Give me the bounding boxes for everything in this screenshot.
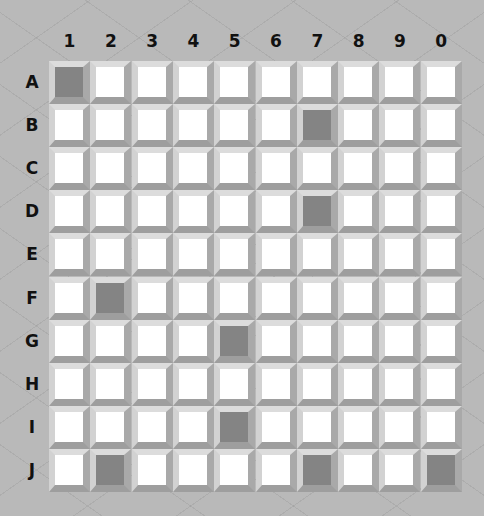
grid-cell-I7[interactable] [297,406,338,449]
grid-cell-H4[interactable] [173,363,214,406]
grid-cell-H3[interactable] [132,363,173,406]
grid-cell-F7[interactable] [297,277,338,320]
grid-cell-D8[interactable] [338,190,379,233]
grid-cell-C5[interactable] [214,147,255,190]
grid-cell-E4[interactable] [173,233,214,276]
grid-cell-D1[interactable] [49,190,90,233]
grid-cell-A3[interactable] [132,61,173,104]
grid-cell-C9[interactable] [379,147,420,190]
grid-cell-I6[interactable] [256,406,297,449]
grid-cell-A2[interactable] [90,61,131,104]
grid-cell-D4[interactable] [173,190,214,233]
grid-cell-F3[interactable] [132,277,173,320]
grid-cell-G5[interactable] [214,320,255,363]
grid-cell-F4[interactable] [173,277,214,320]
grid-cell-J0[interactable] [421,449,462,492]
grid-cell-H1[interactable] [49,363,90,406]
grid-cell-C8[interactable] [338,147,379,190]
grid-cell-H8[interactable] [338,363,379,406]
grid-cell-B5[interactable] [214,104,255,147]
grid-cell-I3[interactable] [132,406,173,449]
grid-cell-G0[interactable] [421,320,462,363]
grid-cell-I0[interactable] [421,406,462,449]
grid-cell-A7[interactable] [297,61,338,104]
grid-cell-D9[interactable] [379,190,420,233]
grid-cell-B6[interactable] [256,104,297,147]
grid-cell-J3[interactable] [132,449,173,492]
grid-cell-C4[interactable] [173,147,214,190]
grid-cell-A5[interactable] [214,61,255,104]
grid-cell-A8[interactable] [338,61,379,104]
grid-cell-J4[interactable] [173,449,214,492]
grid-cell-D6[interactable] [256,190,297,233]
grid-cell-B4[interactable] [173,104,214,147]
grid-cell-C0[interactable] [421,147,462,190]
grid-cell-E8[interactable] [338,233,379,276]
grid-cell-D5[interactable] [214,190,255,233]
grid-cell-F9[interactable] [379,277,420,320]
grid-cell-G9[interactable] [379,320,420,363]
grid-cell-H7[interactable] [297,363,338,406]
grid-cell-F2[interactable] [90,277,131,320]
grid-cell-I9[interactable] [379,406,420,449]
grid-cell-C6[interactable] [256,147,297,190]
grid-cell-H0[interactable] [421,363,462,406]
grid-cell-G6[interactable] [256,320,297,363]
grid-cell-A1[interactable] [49,61,90,104]
grid-cell-B0[interactable] [421,104,462,147]
grid-cell-F6[interactable] [256,277,297,320]
grid-cell-J7[interactable] [297,449,338,492]
grid-cell-I8[interactable] [338,406,379,449]
grid-cell-C2[interactable] [90,147,131,190]
grid-cell-A6[interactable] [256,61,297,104]
grid-cell-G3[interactable] [132,320,173,363]
grid-cell-C3[interactable] [132,147,173,190]
grid-cell-E0[interactable] [421,233,462,276]
grid-cell-J1[interactable] [49,449,90,492]
grid-cell-H6[interactable] [256,363,297,406]
grid-cell-D3[interactable] [132,190,173,233]
grid-cell-E1[interactable] [49,233,90,276]
grid-cell-G7[interactable] [297,320,338,363]
grid-cell-G8[interactable] [338,320,379,363]
grid-cell-H9[interactable] [379,363,420,406]
grid-cell-J8[interactable] [338,449,379,492]
grid-cell-G1[interactable] [49,320,90,363]
grid-cell-I5[interactable] [214,406,255,449]
grid-cell-J2[interactable] [90,449,131,492]
grid-cell-B1[interactable] [49,104,90,147]
grid-cell-D7[interactable] [297,190,338,233]
grid-cell-H2[interactable] [90,363,131,406]
grid-cell-H5[interactable] [214,363,255,406]
grid-cell-B3[interactable] [132,104,173,147]
grid-cell-I4[interactable] [173,406,214,449]
grid-cell-B8[interactable] [338,104,379,147]
grid-cell-G2[interactable] [90,320,131,363]
grid-cell-F5[interactable] [214,277,255,320]
grid-cell-E3[interactable] [132,233,173,276]
grid-cell-G4[interactable] [173,320,214,363]
grid-cell-E5[interactable] [214,233,255,276]
grid-cell-J9[interactable] [379,449,420,492]
grid-cell-E9[interactable] [379,233,420,276]
grid-cell-A4[interactable] [173,61,214,104]
grid-cell-F1[interactable] [49,277,90,320]
grid-cell-E2[interactable] [90,233,131,276]
grid-cell-I1[interactable] [49,406,90,449]
grid-cell-E6[interactable] [256,233,297,276]
grid-cell-B9[interactable] [379,104,420,147]
grid-cell-B7[interactable] [297,104,338,147]
grid-cell-C1[interactable] [49,147,90,190]
grid-cell-B2[interactable] [90,104,131,147]
grid-cell-D2[interactable] [90,190,131,233]
grid-cell-A9[interactable] [379,61,420,104]
grid-cell-C7[interactable] [297,147,338,190]
grid-cell-D0[interactable] [421,190,462,233]
grid-cell-I2[interactable] [90,406,131,449]
grid-cell-E7[interactable] [297,233,338,276]
grid-cell-A0[interactable] [421,61,462,104]
grid-cell-J6[interactable] [256,449,297,492]
grid-cell-F8[interactable] [338,277,379,320]
grid-cell-F0[interactable] [421,277,462,320]
grid-cell-J5[interactable] [214,449,255,492]
